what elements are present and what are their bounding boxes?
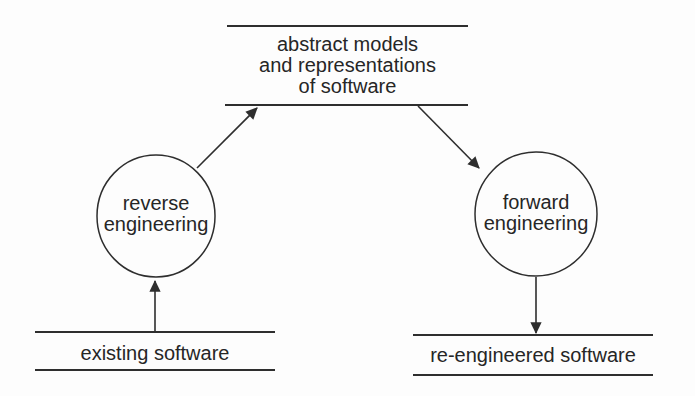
existing-software-line-1: existing software	[35, 343, 275, 364]
node-re-engineered-software-label: re-engineered software	[413, 345, 653, 366]
forward-engineering-line-2: engineering	[466, 213, 606, 234]
node-existing-software-label: existing software	[35, 343, 275, 364]
edge-abstract-to-forward-arrow	[418, 106, 479, 168]
re-engineered-software-line-1: re-engineered software	[413, 345, 653, 366]
abstract-models-line-3: of software	[227, 76, 468, 97]
abstract-models-line-1: abstract models	[227, 34, 468, 55]
reverse-engineering-line-1: reverse	[86, 193, 226, 214]
node-forward-engineering-label: forward engineering	[466, 192, 606, 234]
diagram-canvas: abstract models and representations of s…	[0, 0, 695, 396]
node-reverse-engineering-label: reverse engineering	[86, 193, 226, 235]
reverse-engineering-line-2: engineering	[86, 214, 226, 235]
abstract-models-line-2: and representations	[227, 55, 468, 76]
node-abstract-models-label: abstract models and representations of s…	[227, 34, 468, 97]
forward-engineering-line-1: forward	[466, 192, 606, 213]
edge-reverse-to-abstract-arrow	[197, 108, 257, 168]
